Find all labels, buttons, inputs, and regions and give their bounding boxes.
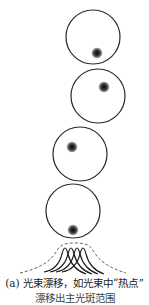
beam-circle — [53, 127, 107, 181]
figure-caption-continued: 漂移出主光斑范围 — [0, 291, 149, 305]
hot-spot — [66, 141, 78, 153]
beam-circle — [71, 69, 125, 123]
beam-frame-4 — [46, 184, 100, 238]
hot-spot — [98, 81, 110, 93]
intensity-profiles — [20, 243, 126, 274]
figure-caption: (a) 光束漂移，如光束中“热点” — [0, 276, 149, 290]
beam-frame-2 — [71, 69, 125, 123]
beam-frame-3 — [53, 127, 107, 181]
beam-frame-1 — [66, 10, 120, 64]
hot-spot — [91, 47, 103, 59]
hot-spot — [67, 224, 79, 236]
